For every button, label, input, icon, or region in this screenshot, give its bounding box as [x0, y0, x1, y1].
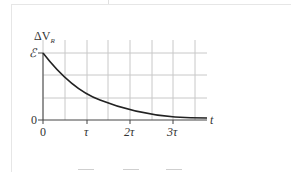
- x-axis-label: t: [210, 114, 213, 126]
- x-tick-2tau: 2τ: [124, 126, 134, 138]
- x-tick-tau: τ: [84, 126, 88, 138]
- blank-line-3: [166, 169, 182, 170]
- decay-chart: [0, 0, 298, 183]
- emf-tick-label: ℰ: [29, 47, 36, 59]
- decay-curve: [43, 53, 207, 118]
- blank-line-2: [123, 169, 139, 170]
- blank-line-1: [78, 169, 94, 170]
- x-tick-0: 0: [40, 126, 46, 138]
- y-axis-label: ΔVR: [34, 30, 55, 45]
- x-tick-3tau: 3τ: [167, 126, 177, 138]
- y-zero-tick-label: 0: [31, 114, 37, 126]
- axes: [38, 53, 207, 124]
